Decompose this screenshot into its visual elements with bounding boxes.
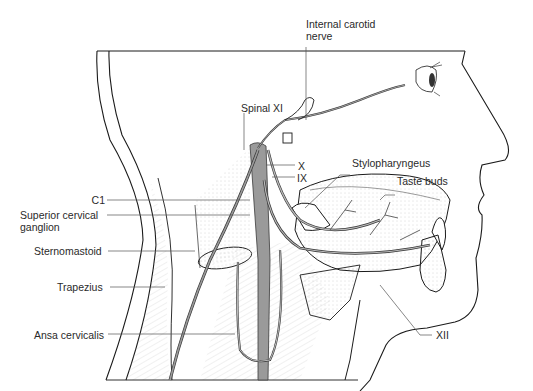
- label-spinal-xi: Spinal XI: [241, 102, 283, 114]
- label-stylopharyngeus: Stylopharyngeus: [352, 157, 430, 169]
- trapezius-muscle: [126, 180, 170, 380]
- label-internal-carotid-nerve-line1: Internal carotid: [306, 18, 375, 30]
- label-c1: C1: [88, 194, 105, 206]
- label-superior-cervical-ganglion-line1: Superior cervical: [20, 209, 104, 221]
- anatomical-diagram: Internal carotid nerve Spinal XI X IX St…: [0, 0, 533, 391]
- label-xii: XII: [436, 329, 449, 341]
- label-internal-carotid-nerve: Internal carotid nerve: [306, 18, 375, 42]
- label-trapezius: Trapezius: [57, 281, 103, 293]
- label-superior-cervical-ganglion-line2: ganglion: [20, 221, 104, 233]
- label-ansa-cervicalis: Ansa cervicalis: [34, 329, 104, 341]
- skull-foramen-box: [283, 133, 292, 143]
- internal-carotid-nerve: [258, 85, 405, 148]
- label-superior-cervical-ganglion: Superior cervical ganglion: [20, 209, 104, 233]
- throat-outline: [345, 300, 360, 380]
- label-sternomastoid: Sternomastoid: [34, 245, 102, 257]
- label-taste-buds: Taste buds: [397, 175, 448, 187]
- label-internal-carotid-nerve-line2: nerve: [306, 30, 375, 42]
- label-x: X: [298, 160, 305, 172]
- hyoid-larynx: [300, 265, 360, 320]
- label-ix: IX: [297, 172, 307, 184]
